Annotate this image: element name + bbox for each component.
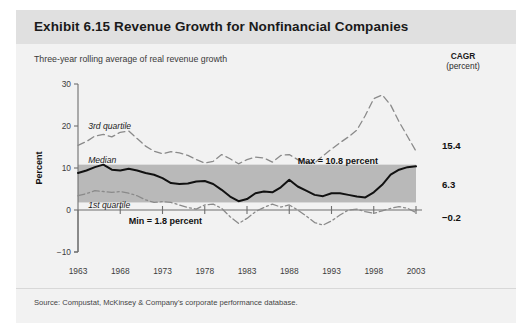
y-tick-label: −10	[57, 247, 72, 257]
cagr-value-1st-quartile: −0.2	[442, 212, 461, 223]
chart-plot-area: −100102030 19631968197319781983198819931…	[16, 72, 516, 287]
cagr-value-3rd-quartile: 15.4	[442, 140, 461, 151]
annotation-first-quartile-label: 1st quartile	[88, 200, 130, 210]
x-tick-label: 1988	[280, 266, 299, 276]
cagr-header-units: (percent)	[428, 62, 498, 72]
x-tick-label: 1993	[322, 266, 341, 276]
exhibit-subtitle: Three-year rolling average of real reven…	[34, 54, 227, 64]
cagr-column-header: CAGR (percent)	[428, 52, 498, 72]
y-tick-label: 30	[62, 79, 72, 89]
x-tick-label: 1983	[238, 266, 257, 276]
y-tick-label: 0	[66, 205, 71, 215]
x-tick-label: 1973	[153, 266, 172, 276]
y-axis-title: Percent	[34, 151, 44, 184]
x-axis-ticks: 196319681973197819831988199319982003	[69, 206, 426, 276]
x-tick-label: 1968	[111, 266, 130, 276]
y-tick-label: 10	[62, 163, 72, 173]
exhibit-title: Exhibit 6.15 Revenue Growth for Nonfinan…	[34, 19, 408, 34]
exhibit-card: Exhibit 6.15 Revenue Growth for Nonfinan…	[16, 10, 516, 323]
annotation-min: Min = 1.8 percent	[129, 216, 202, 226]
y-tick-label: 20	[62, 121, 72, 131]
x-tick-label: 1963	[69, 266, 88, 276]
y-axis-title: Percent	[34, 151, 44, 184]
annotation-third-quartile-label: 3rd quartile	[88, 121, 131, 131]
annotation-median-label: Median	[88, 155, 116, 165]
footer-divider	[16, 288, 516, 289]
revenue-growth-line-chart: −100102030 19631968197319781983198819931…	[16, 72, 516, 287]
annotation-max: Max = 10.8 percent	[298, 156, 378, 166]
source-note: Source: Compustat, McKinsey & Company's …	[34, 298, 298, 307]
exhibit-title-bar: Exhibit 6.15 Revenue Growth for Nonfinan…	[16, 10, 516, 44]
x-tick-label: 2003	[407, 266, 426, 276]
cagr-value-median: 6.3	[442, 179, 455, 190]
y-axis-ticks: −100102030	[57, 79, 78, 257]
x-tick-label: 1978	[195, 266, 214, 276]
cagr-values: 15.46.3−0.2	[442, 140, 461, 222]
x-tick-label: 1998	[364, 266, 383, 276]
